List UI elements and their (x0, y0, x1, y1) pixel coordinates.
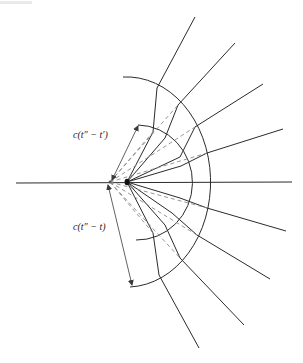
upper-dimension-arrow (112, 126, 138, 180)
horizontal-axis (16, 182, 292, 183)
main-source-point (125, 179, 130, 185)
secondary-source-point (109, 181, 112, 184)
ray-7 (127, 182, 244, 325)
ray-6 (127, 182, 270, 279)
dashed-line-2 (110, 105, 178, 182)
lower-distance-label: c(t″ − t) (73, 221, 106, 233)
ray-1 (127, 17, 195, 182)
lower-dimension-arrow (108, 185, 132, 285)
wavefront-diagram: c(t″ − t′) c(t″ − t) (0, 0, 303, 363)
upper-distance-label: c(t″ − t′) (73, 129, 108, 141)
ray-3 (127, 84, 263, 182)
dashed-line-3 (110, 127, 195, 182)
ray-5 (127, 182, 286, 231)
dashed-line-7 (110, 182, 180, 258)
dashed-line-8 (110, 182, 153, 233)
